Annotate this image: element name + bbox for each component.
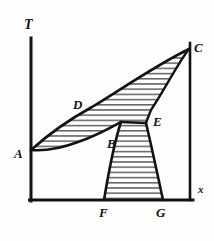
point-label-e: E bbox=[153, 115, 162, 128]
point-label-b: B bbox=[107, 137, 116, 150]
point-label-g: G bbox=[156, 206, 165, 219]
curve-EB bbox=[121, 122, 146, 123]
point-label-a: A bbox=[14, 147, 23, 160]
point-label-d: D bbox=[73, 98, 82, 111]
phase-diagram-figure: T x A B C D E F G bbox=[0, 0, 214, 241]
temperature-axis-label: T bbox=[24, 18, 33, 32]
point-label-c: C bbox=[194, 41, 203, 54]
point-label-f: F bbox=[99, 206, 108, 219]
composition-axis-label: x bbox=[198, 184, 204, 195]
